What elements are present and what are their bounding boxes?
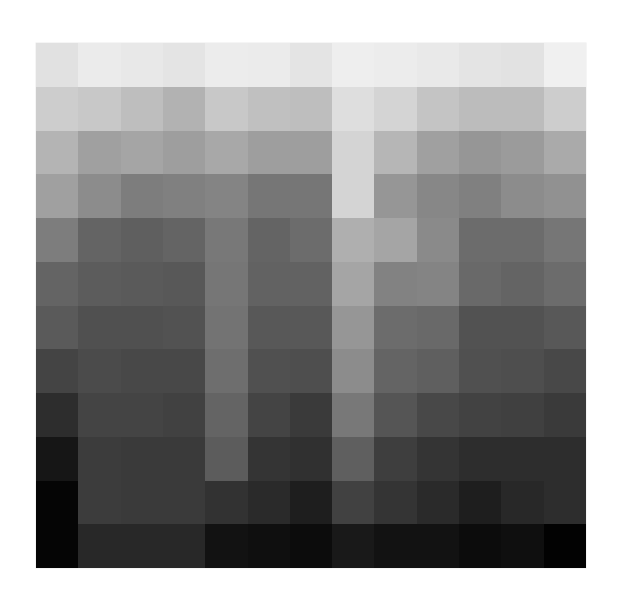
- grid-cell: [417, 131, 459, 175]
- grid-cell: [78, 262, 120, 306]
- grid-cell: [374, 349, 416, 393]
- grid-cell: [163, 262, 205, 306]
- grid-cell: [459, 131, 501, 175]
- grid-cell: [121, 437, 163, 481]
- grid-cell: [417, 524, 459, 568]
- grid-cell: [248, 437, 290, 481]
- grid-cell: [332, 524, 374, 568]
- grid-cell: [248, 481, 290, 525]
- grid-cell: [374, 437, 416, 481]
- grid-cell: [290, 349, 332, 393]
- grid-cell: [374, 131, 416, 175]
- grid-cell: [417, 437, 459, 481]
- grid-cell: [332, 349, 374, 393]
- grid-cell: [332, 262, 374, 306]
- grid-cell: [544, 349, 586, 393]
- grid-cell: [332, 43, 374, 87]
- grid-cell: [248, 306, 290, 350]
- grid-cell: [205, 349, 247, 393]
- grid-cell: [121, 524, 163, 568]
- grid-cell: [332, 218, 374, 262]
- grid-cell: [36, 306, 78, 350]
- grid-cell: [501, 437, 543, 481]
- grid-cell: [36, 437, 78, 481]
- grid-cell: [248, 218, 290, 262]
- grid-cell: [501, 131, 543, 175]
- grid-cell: [544, 43, 586, 87]
- grid-cell: [163, 437, 205, 481]
- grid-cell: [290, 87, 332, 131]
- grid-cell: [501, 481, 543, 525]
- grid-cell: [78, 393, 120, 437]
- grid-cell: [459, 43, 501, 87]
- grid-cell: [163, 481, 205, 525]
- grid-cell: [205, 262, 247, 306]
- grid-cell: [248, 174, 290, 218]
- grid-cell: [374, 262, 416, 306]
- grid-cell: [544, 87, 586, 131]
- grid-cell: [417, 349, 459, 393]
- grid-cell: [248, 524, 290, 568]
- grid-cell: [544, 306, 586, 350]
- grid-cell: [121, 393, 163, 437]
- grid-cell: [36, 43, 78, 87]
- grid-cell: [374, 481, 416, 525]
- grid-cell: [205, 174, 247, 218]
- grid-cell: [332, 481, 374, 525]
- grid-cell: [544, 524, 586, 568]
- grid-cell: [417, 43, 459, 87]
- grid-cell: [78, 87, 120, 131]
- grid-cell: [459, 524, 501, 568]
- grid-cell: [417, 393, 459, 437]
- grid-cell: [417, 481, 459, 525]
- grid-cell: [417, 306, 459, 350]
- grid-cell: [248, 43, 290, 87]
- grid-cell: [374, 43, 416, 87]
- grid-cell: [290, 437, 332, 481]
- grid-cell: [501, 262, 543, 306]
- grid-cell: [36, 481, 78, 525]
- grid-cell: [121, 218, 163, 262]
- grid-cell: [205, 393, 247, 437]
- grid-cell: [332, 393, 374, 437]
- grid-cell: [417, 174, 459, 218]
- grid-cell: [36, 218, 78, 262]
- grid-cell: [544, 437, 586, 481]
- grid-cell: [544, 174, 586, 218]
- grid-cell: [332, 306, 374, 350]
- grid-cell: [501, 87, 543, 131]
- grid-cell: [205, 524, 247, 568]
- grid-cell: [459, 218, 501, 262]
- grid-cell: [205, 481, 247, 525]
- grid-cell: [544, 131, 586, 175]
- grid-cell: [374, 393, 416, 437]
- grid-cell: [290, 218, 332, 262]
- grid-cell: [501, 349, 543, 393]
- grid-cell: [121, 43, 163, 87]
- grid-cell: [290, 524, 332, 568]
- grid-cell: [290, 131, 332, 175]
- grid-cell: [121, 481, 163, 525]
- grid-cell: [205, 131, 247, 175]
- grid-cell: [78, 524, 120, 568]
- grid-cell: [544, 262, 586, 306]
- grid-cell: [459, 87, 501, 131]
- grid-cell: [459, 174, 501, 218]
- grid-cell: [205, 87, 247, 131]
- grid-cell: [332, 87, 374, 131]
- grid-cell: [121, 349, 163, 393]
- grid-cell: [248, 87, 290, 131]
- grid-cell: [374, 87, 416, 131]
- grid-cell: [248, 262, 290, 306]
- grid-cell: [459, 393, 501, 437]
- grid-cell: [36, 131, 78, 175]
- grid-cell: [459, 306, 501, 350]
- grid-cell: [544, 218, 586, 262]
- grid-cell: [501, 524, 543, 568]
- grid-cell: [290, 393, 332, 437]
- grid-cell: [121, 174, 163, 218]
- grid-cell: [374, 174, 416, 218]
- grid-cell: [36, 349, 78, 393]
- grid-cell: [163, 349, 205, 393]
- grid-cell: [36, 524, 78, 568]
